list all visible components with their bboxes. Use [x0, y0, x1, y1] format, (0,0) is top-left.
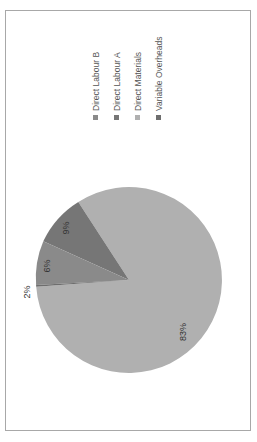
legend-swatch-direct-labour-a — [114, 115, 119, 120]
pie-chart: 83% 9% 6% 2% Direct Labour B Direct Labo… — [0, 0, 257, 442]
legend-label-direct-materials: Direct Materials — [133, 52, 143, 111]
label-83: 83% — [178, 323, 188, 341]
label-2: 2% — [22, 285, 32, 298]
legend: Direct Labour B Direct Labour A Direct M… — [91, 37, 164, 121]
legend-label-direct-labour-b: Direct Labour B — [91, 52, 101, 111]
legend-swatch-variable-overheads — [156, 115, 161, 120]
legend-label-variable-overheads: Variable Overheads — [154, 37, 164, 112]
legend-swatch-direct-labour-b — [93, 115, 98, 120]
legend-swatch-direct-materials — [135, 115, 140, 120]
label-9: 9% — [61, 221, 71, 234]
legend-label-direct-labour-a: Direct Labour A — [112, 52, 122, 111]
label-6: 6% — [42, 259, 52, 272]
